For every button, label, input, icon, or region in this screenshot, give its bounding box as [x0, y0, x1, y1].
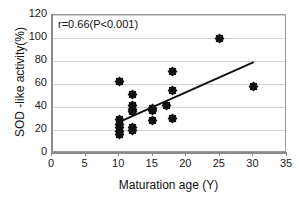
x-axis-tick-label: 15	[137, 158, 167, 169]
correlation-annotation: r=0.66(P<0.001)	[58, 18, 138, 30]
y-axis-line	[51, 14, 53, 153]
x-axis-tick-label: 20	[170, 158, 200, 169]
x-axis-tick	[85, 152, 86, 156]
trendline	[119, 61, 254, 123]
data-point	[248, 81, 258, 91]
data-point	[128, 89, 138, 99]
y-axis-tick-label: 20	[35, 123, 47, 134]
x-axis-tick	[286, 152, 287, 156]
y-axis-tick-label: 80	[35, 54, 47, 65]
x-axis-tick	[219, 152, 220, 156]
data-point	[114, 77, 124, 87]
x-axis-tick-label: 35	[271, 158, 299, 169]
x-axis-tick	[252, 152, 253, 156]
gridline	[52, 38, 285, 39]
y-axis-tick-label: 40	[35, 100, 47, 111]
x-axis-tick-label: 25	[204, 158, 234, 169]
scatter-chart: r=0.66(P<0.001) 020406080100120 05101520…	[0, 0, 299, 203]
y-axis-tick-label: 60	[35, 77, 47, 88]
x-axis-tick-label: 5	[70, 158, 100, 169]
x-axis-tick-label: 0	[36, 158, 66, 169]
gridline	[52, 15, 285, 16]
plot-area: r=0.66(P<0.001)	[51, 14, 286, 152]
data-point	[148, 116, 158, 126]
x-axis-tick-label: 30	[237, 158, 267, 169]
x-axis-tick	[118, 152, 119, 156]
x-axis-tick-label: 10	[103, 158, 133, 169]
y-axis-title: SOD -like activity(%)	[13, 7, 27, 157]
y-axis-tick-label: 0	[41, 146, 47, 157]
gridline	[52, 130, 285, 131]
data-point	[168, 66, 178, 76]
x-axis-tick	[51, 152, 52, 156]
x-axis-title: Maturation age (Y)	[51, 178, 286, 192]
x-axis-tick	[185, 152, 186, 156]
data-point	[215, 33, 225, 43]
x-axis-tick	[152, 152, 153, 156]
data-point	[168, 114, 178, 124]
y-axis-tick-label: 120	[29, 8, 47, 19]
y-axis-tick-label: 100	[29, 31, 47, 42]
